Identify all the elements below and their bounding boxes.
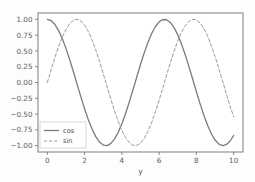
x-tick-label: 0 — [45, 156, 50, 165]
x-axis-ticks: 0246810 — [45, 152, 239, 165]
y-tick-label: −0.50 — [10, 110, 32, 119]
y-tick-label: 0.50 — [16, 47, 32, 56]
x-tick-label: 2 — [82, 156, 87, 165]
x-tick-label: 4 — [120, 156, 125, 165]
x-tick-label: 10 — [229, 156, 239, 165]
matplotlib-figure: 0246810 1.000.750.500.250.00−0.25−0.50−0… — [0, 0, 255, 182]
x-tick-label: 8 — [194, 156, 199, 165]
legend-label-cos: cos — [63, 127, 75, 135]
y-tick-label: 1.00 — [16, 15, 32, 24]
y-tick-label: 0.75 — [16, 31, 32, 40]
x-tick-label: 6 — [157, 156, 162, 165]
y-tick-label: −1.00 — [10, 141, 32, 150]
legend-label-sin: sin — [63, 137, 72, 145]
line-chart: 0246810 1.000.750.500.250.00−0.25−0.50−0… — [0, 0, 255, 182]
y-tick-label: −0.75 — [10, 125, 32, 134]
y-tick-label: 0.25 — [16, 62, 32, 71]
chart-legend[interactable]: cossin — [40, 122, 86, 148]
x-axis-label: y — [138, 167, 143, 176]
y-axis-ticks: 1.000.750.500.250.00−0.25−0.50−0.75−1.00 — [10, 15, 38, 150]
y-tick-label: 0.00 — [16, 78, 32, 87]
y-tick-label: −0.25 — [10, 94, 32, 103]
